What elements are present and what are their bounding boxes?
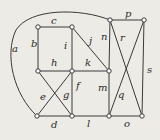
edge-s — [142, 20, 144, 116]
edge-label-n: n — [101, 31, 107, 42]
vertex-v8 — [142, 18, 146, 22]
edge-label-p: p — [125, 8, 132, 19]
graph-svg: abcdefghijklmnopqrs — [0, 0, 160, 140]
edge-r — [110, 20, 142, 116]
vertex-v9 — [107, 69, 111, 73]
edge-label-g: g — [63, 89, 69, 100]
vertex-v10 — [107, 114, 111, 118]
edge-label-l: l — [87, 118, 90, 129]
edge-label-c: c — [51, 15, 57, 26]
edge-label-s: s — [147, 64, 152, 75]
vertex-v3 — [36, 69, 40, 73]
edge-label-i: i — [64, 40, 67, 51]
vertex-v6 — [70, 114, 74, 118]
edge-label-j: j — [87, 35, 92, 46]
edge-label-o: o — [124, 118, 130, 129]
vertices-group — [35, 18, 146, 118]
edge-n — [109, 20, 110, 71]
vertex-v2 — [70, 25, 74, 29]
edge-label-q: q — [118, 89, 124, 100]
edge-label-h: h — [51, 57, 57, 68]
vertex-v7 — [108, 18, 112, 22]
edge-label-a: a — [12, 43, 18, 54]
edge-label-m: m — [98, 82, 107, 93]
edge-label-b: b — [31, 38, 37, 49]
vertex-v11 — [140, 114, 144, 118]
edges-group — [11, 12, 144, 116]
vertex-v1 — [36, 25, 40, 29]
graph-diagram: abcdefghijklmnopqrs — [0, 0, 160, 140]
vertex-v5 — [35, 114, 39, 118]
edge-label-r: r — [120, 32, 126, 43]
edge-label-f: f — [75, 80, 82, 91]
edge-label-k: k — [85, 57, 91, 68]
edge-label-d: d — [51, 119, 57, 130]
vertex-v4 — [70, 69, 74, 73]
edge-label-e: e — [40, 91, 46, 102]
